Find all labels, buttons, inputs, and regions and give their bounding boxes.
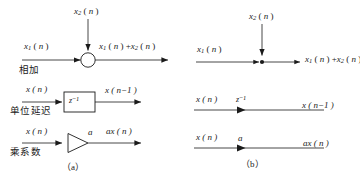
panel-b-delay-input-label: x ( n ) bbox=[196, 95, 217, 104]
delay-branch-arrowhead bbox=[237, 107, 246, 114]
panel-b-delay-branch-label: z⁻¹ bbox=[236, 96, 246, 104]
panel-a-delay-input-label: x ( n ) bbox=[26, 85, 47, 94]
panel-a-delay-cn-label: 单位延迟 bbox=[10, 106, 51, 116]
panel-a-caption: （a） bbox=[62, 163, 84, 172]
panel-a-delay-output-label: x ( n−1 ) bbox=[105, 86, 137, 95]
diagram-vector-layer bbox=[0, 0, 360, 183]
panel-b-caption: （b） bbox=[241, 160, 264, 169]
panel-b-gain-branch-label: a bbox=[238, 134, 243, 143]
panel-b-node-top-input-label: x2 ( n ) bbox=[249, 12, 274, 22]
panel-a-multiplier-gain-label: a bbox=[88, 128, 93, 137]
panel-a-multiplier-cn-label: 乘系数 bbox=[10, 147, 41, 157]
panel-a-adder-main-input-label: x1 ( n ) bbox=[24, 42, 49, 52]
panel-a-delay-block-label: z⁻¹ bbox=[69, 97, 79, 105]
panel-a-adder-cn-label: 相加 bbox=[19, 65, 40, 75]
panel-a-multiplier-input-label: x ( n ) bbox=[26, 127, 47, 136]
figure-canvas: x2 ( n ) x1 ( n ) x1 ( n ) +x2 ( n ) 相加 … bbox=[0, 0, 360, 183]
panel-b-node-main-input-label: x1 ( n ) bbox=[197, 45, 222, 55]
gain-branch-arrowhead bbox=[237, 145, 246, 152]
panel-b-delay-output-label: x ( n−1 ) bbox=[302, 101, 334, 110]
panel-a-multiplier-output-label: ax ( n ) bbox=[106, 127, 132, 136]
panel-b-node-output-label: x1 ( n ) +x2 ( n ) bbox=[305, 55, 360, 65]
panel-b-gain-output-label: ax ( n ) bbox=[303, 139, 329, 148]
panel-a-adder-output-label: x1 ( n ) +x2 ( n ) bbox=[99, 42, 155, 52]
adder-circle bbox=[81, 53, 95, 67]
panel-a-adder-top-input-label: x2 ( n ) bbox=[74, 7, 99, 17]
multiplier-triangle bbox=[68, 134, 88, 153]
panel-b-gain-input-label: x ( n ) bbox=[196, 133, 217, 142]
